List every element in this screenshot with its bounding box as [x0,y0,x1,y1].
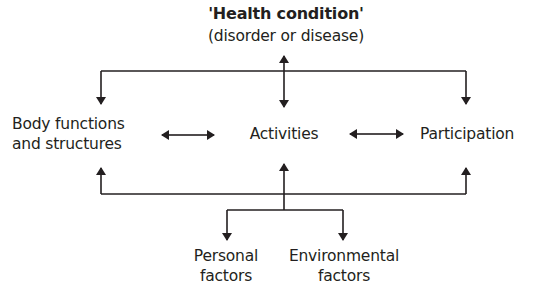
personal-label-line1: Personal [194,246,258,266]
body-label-line2: and structures [12,134,125,154]
health-condition-title: 'Health condition' [208,4,364,24]
node-environmental-factors: Environmental factors [289,246,399,286]
body-label-line1: Body functions [12,114,125,134]
personal-label-line2: factors [194,266,258,286]
environmental-label-line2: factors [289,266,399,286]
node-activities: Activities [250,124,319,144]
node-personal-factors: Personal factors [194,246,258,286]
node-body-functions: Body functions and structures [12,114,125,154]
icf-model-diagram: 'Health condition' (disorder or disease)… [0,0,540,298]
environmental-label-line1: Environmental [289,246,399,266]
node-participation: Participation [420,124,514,144]
health-condition-subtitle: (disorder or disease) [208,26,364,46]
